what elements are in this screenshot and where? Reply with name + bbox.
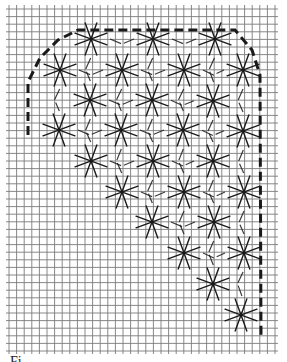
stitch-connector (238, 272, 244, 296)
star-stitch (197, 268, 229, 300)
stitch-connector (171, 100, 194, 105)
star-stitch (105, 114, 137, 146)
star-stitch (167, 114, 199, 146)
stitch-connector (79, 70, 103, 75)
star-stitch (106, 176, 138, 208)
figure-caption: Fi (10, 355, 22, 362)
star-stitch (228, 237, 260, 269)
stitch-connector (203, 70, 224, 75)
star-stitch (228, 176, 260, 208)
stitch-diagram (0, 0, 287, 362)
star-stitches (43, 23, 260, 331)
graph-paper-grid (6, 5, 278, 354)
star-stitch (197, 85, 229, 117)
stitch-connector (172, 161, 194, 166)
stitch-connector (109, 100, 133, 105)
stitch-connector (202, 130, 224, 135)
